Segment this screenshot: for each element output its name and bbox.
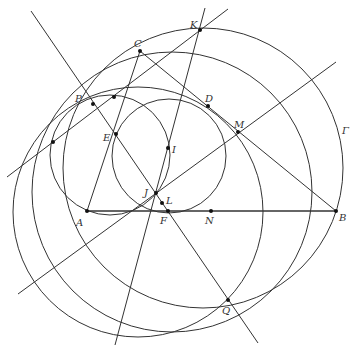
circle-big-left <box>32 52 312 332</box>
line-PQ <box>31 11 258 343</box>
point-F <box>166 209 170 213</box>
point-label-C: C <box>134 38 142 49</box>
point-label-N: N <box>204 215 215 226</box>
point-label-Q: Q <box>222 305 230 316</box>
point-D <box>206 104 210 108</box>
point-label-I: I <box>171 144 177 155</box>
point-label-A: A <box>75 217 83 228</box>
labels-group: ABCDEFIJKLMNPQ <box>74 19 346 316</box>
point-K <box>198 28 202 32</box>
point-A <box>85 209 89 213</box>
point-N <box>209 209 213 213</box>
circles-group <box>13 28 343 337</box>
line-X1K <box>7 9 228 177</box>
circle-through-MQ <box>13 87 263 337</box>
point-P <box>91 102 95 106</box>
point-label-J: J <box>142 187 149 198</box>
circle-small-left <box>50 95 170 215</box>
point-label-P: P <box>74 93 82 104</box>
point-Q <box>226 298 230 302</box>
line-JM <box>18 62 336 294</box>
point-B <box>334 209 338 213</box>
point-L <box>160 201 164 205</box>
point-label-K: K <box>189 19 198 30</box>
point-label-D: D <box>204 93 213 104</box>
point-I <box>166 146 170 150</box>
diagram-canvas: ABCDEFIJKLMNPQ Γ <box>0 0 359 355</box>
point-label-L: L <box>165 195 173 206</box>
triangle-sides-group <box>87 51 336 211</box>
point-M <box>236 130 240 134</box>
point-label-E: E <box>102 132 111 143</box>
point-label-M: M <box>233 119 245 130</box>
circle-gamma <box>63 28 343 308</box>
point-C <box>138 49 142 53</box>
geometry-diagram: ABCDEFIJKLMNPQ Γ <box>0 0 359 355</box>
point-E <box>114 132 118 136</box>
point-X2 <box>112 95 116 99</box>
point-J <box>154 191 158 195</box>
point-X1 <box>51 140 55 144</box>
point-label-B: B <box>338 212 346 223</box>
circle-gamma-label: Γ <box>341 125 350 136</box>
point-label-F: F <box>159 215 168 226</box>
lines-group <box>7 8 336 345</box>
